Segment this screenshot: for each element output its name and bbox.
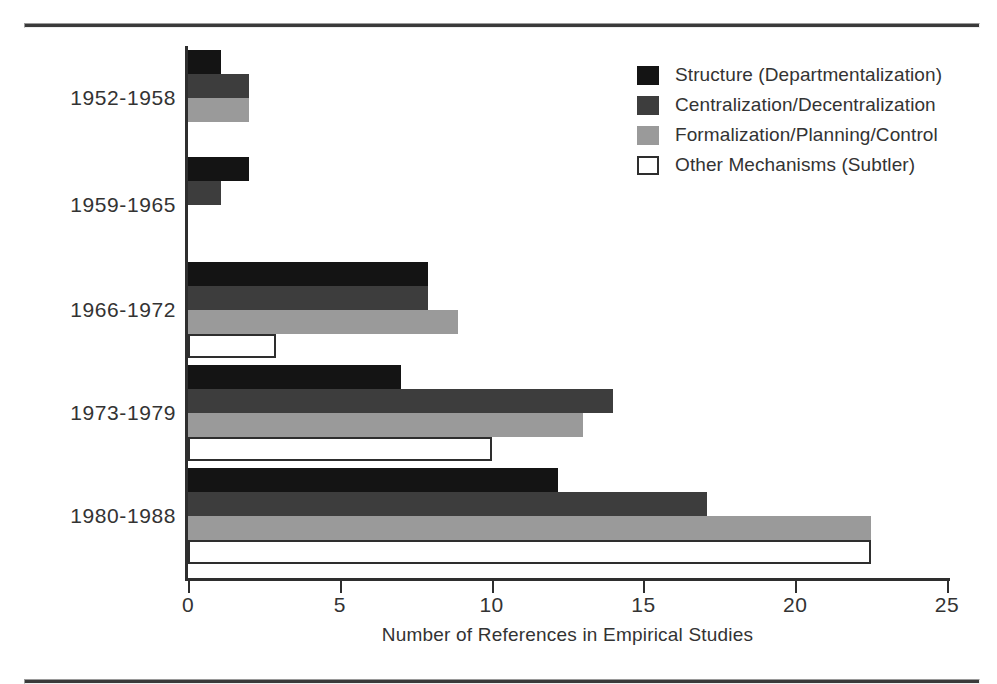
x-tick-5 xyxy=(340,581,342,593)
legend-swatch-icon-2 xyxy=(637,126,659,145)
bar-1973-1979-series-2 xyxy=(188,413,583,437)
bar-1973-1979-series-0 xyxy=(188,365,401,389)
x-tick-15 xyxy=(643,581,645,593)
y-category-label-1952-1958: 1952-1958 xyxy=(28,86,176,110)
legend-swatch-icon-3 xyxy=(637,156,659,175)
x-tick-label-25: 25 xyxy=(917,593,977,617)
legend-item-3: Other Mechanisms (Subtler) xyxy=(637,150,967,180)
x-tick-20 xyxy=(795,581,797,593)
x-tick-0 xyxy=(188,581,190,593)
bar-1966-1972-series-3 xyxy=(188,334,276,358)
bar-1959-1965-series-1 xyxy=(188,181,221,205)
bar-1973-1979-series-1 xyxy=(188,389,613,413)
y-category-label-1966-1972: 1966-1972 xyxy=(28,298,176,322)
bar-1980-1988-series-1 xyxy=(188,492,707,516)
bar-1980-1988-series-0 xyxy=(188,468,558,492)
x-tick-label-5: 5 xyxy=(310,593,370,617)
bar-1959-1965-series-0 xyxy=(188,157,249,181)
legend-label-1: Centralization/Decentralization xyxy=(675,94,936,116)
legend-item-1: Centralization/Decentralization xyxy=(637,90,967,120)
y-category-label-1980-1988: 1980-1988 xyxy=(28,504,176,528)
legend-swatch-icon-0 xyxy=(637,66,659,85)
x-tick-label-15: 15 xyxy=(613,593,673,617)
legend-label-2: Formalization/Planning/Control xyxy=(675,124,938,146)
bar-1966-1972-series-2 xyxy=(188,310,458,334)
legend-item-2: Formalization/Planning/Control xyxy=(637,120,967,150)
bar-1980-1988-series-2 xyxy=(188,516,871,540)
bar-1952-1958-series-0 xyxy=(188,50,221,74)
bar-1966-1972-series-0 xyxy=(188,262,428,286)
y-category-label-1959-1965: 1959-1965 xyxy=(28,193,176,217)
x-axis-line xyxy=(185,578,950,581)
x-tick-25 xyxy=(947,581,949,593)
bar-1952-1958-series-1 xyxy=(188,74,249,98)
bar-1980-1988-series-3 xyxy=(188,540,871,564)
legend-item-0: Structure (Departmentalization) xyxy=(637,60,967,90)
bar-1952-1958-series-2 xyxy=(188,98,249,122)
x-axis-title: Number of References in Empirical Studie… xyxy=(188,624,947,646)
x-tick-10 xyxy=(492,581,494,593)
legend-label-0: Structure (Departmentalization) xyxy=(675,64,942,86)
chart-legend: Structure (Departmentalization)Centraliz… xyxy=(637,60,967,180)
x-tick-label-0: 0 xyxy=(158,593,218,617)
bar-1966-1972-series-1 xyxy=(188,286,428,310)
x-tick-label-10: 10 xyxy=(462,593,522,617)
x-tick-label-20: 20 xyxy=(765,593,825,617)
bar-1973-1979-series-3 xyxy=(188,437,492,461)
y-category-label-1973-1979: 1973-1979 xyxy=(28,401,176,425)
legend-label-3: Other Mechanisms (Subtler) xyxy=(675,154,915,176)
legend-swatch-icon-1 xyxy=(637,96,659,115)
